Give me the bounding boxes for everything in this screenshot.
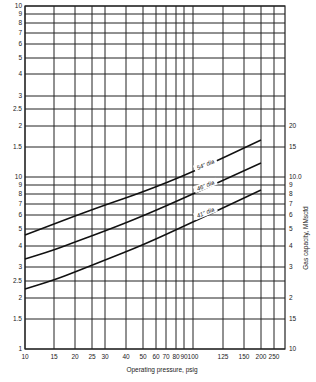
x-tick-label: 150 xyxy=(239,353,250,360)
svg-text:54" dia: 54" dia xyxy=(196,158,216,171)
y-tick-label-right: 7 xyxy=(289,200,293,207)
svg-text:46" dia: 46" dia xyxy=(196,179,216,192)
x-axis-ticks: 1015202530405060708090100125150200250 xyxy=(21,353,279,360)
y-tick-label-left: 8 xyxy=(18,19,22,26)
y-tick-label-right: 10 xyxy=(289,345,297,352)
x-tick-label: 10 xyxy=(21,353,29,360)
y-axis-right-label: Gas capacity, MMscfd xyxy=(302,206,310,270)
y-tick-label-left: 2.5 xyxy=(13,277,22,284)
curve-label: 54" dia xyxy=(193,157,218,172)
y-tick-label-right: 15 xyxy=(289,143,297,150)
y-tick-label-left: 8 xyxy=(18,190,22,197)
grid-lines xyxy=(25,6,285,349)
x-tick-label: 70 xyxy=(162,353,170,360)
x-tick-label: 100 xyxy=(188,353,199,360)
gas-capacity-chart: 54" dia46" dia41" dia 1098765432.521.510… xyxy=(0,0,316,382)
x-tick-label: 80 xyxy=(172,353,180,360)
y-tick-label-left: 9 xyxy=(18,181,22,188)
y-tick-label-right: 5 xyxy=(289,225,293,232)
curve-label: 41" dia xyxy=(193,205,218,220)
x-tick-label: 60 xyxy=(152,353,160,360)
y-tick-label-right: 10.0 xyxy=(289,173,302,180)
y-tick-label-right: 3 xyxy=(289,263,293,270)
x-tick-label: 250 xyxy=(269,353,280,360)
y-tick-label-left: 2 xyxy=(18,294,22,301)
y-tick-label-right: 6 xyxy=(289,211,293,218)
y-tick-label-left: 5 xyxy=(18,225,22,232)
y-tick-label-right: 2 xyxy=(289,294,293,301)
y-tick-label-right: 9 xyxy=(289,181,293,188)
y-tick-label-left: 9 xyxy=(18,10,22,17)
y-axis-left-ticks: 1098765432.521.51098765432.521.51 xyxy=(13,2,22,352)
y-tick-label-left: 7 xyxy=(18,29,22,36)
y-tick-label-left: 4 xyxy=(18,70,22,77)
y-tick-label-left: 3 xyxy=(18,263,22,270)
x-tick-label: 125 xyxy=(218,353,229,360)
y-tick-label-left: 3 xyxy=(18,92,22,99)
y-tick-label-left: 2 xyxy=(18,122,22,129)
y-tick-label-left: 7 xyxy=(18,200,22,207)
x-tick-label: 30 xyxy=(101,353,109,360)
x-tick-label: 15 xyxy=(50,353,58,360)
x-tick-label: 20 xyxy=(71,353,79,360)
svg-text:41" dia: 41" dia xyxy=(196,206,216,219)
y-tick-label-left: 6 xyxy=(18,40,22,47)
y-tick-label-left: 1 xyxy=(18,345,22,352)
y-tick-label-right: 15 xyxy=(289,315,297,322)
y-tick-label-left: 4 xyxy=(18,242,22,249)
y-tick-label-right: 20 xyxy=(289,122,297,129)
x-tick-label: 25 xyxy=(88,353,96,360)
y-tick-label-left: 1.5 xyxy=(13,315,22,322)
y-tick-label-left: 2.5 xyxy=(13,105,22,112)
y-tick-label-left: 10 xyxy=(15,173,23,180)
x-axis-label: Operating pressure, psig xyxy=(126,366,198,374)
y-tick-label-left: 1.5 xyxy=(13,143,22,150)
y-tick-label-left: 10 xyxy=(15,2,23,9)
y-tick-label-left: 6 xyxy=(18,211,22,218)
x-tick-label: 50 xyxy=(139,353,147,360)
y-tick-label-left: 5 xyxy=(18,54,22,61)
y-axis-right-ticks: 201510.0987654321510 xyxy=(289,122,302,352)
y-tick-label-right: 8 xyxy=(289,190,293,197)
curve-labels: 54" dia46" dia41" dia xyxy=(193,157,218,220)
x-tick-label: 200 xyxy=(256,353,267,360)
x-tick-label: 40 xyxy=(122,353,130,360)
y-tick-label-right: 4 xyxy=(289,242,293,249)
curve-label: 46" dia xyxy=(193,178,218,193)
